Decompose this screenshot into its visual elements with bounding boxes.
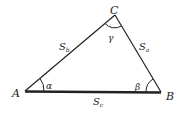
angle-beta-arc [146, 79, 153, 92]
angle-gamma-arc [105, 24, 122, 28]
side-label-b: Sb [59, 41, 70, 53]
angle-alpha-arc [40, 79, 44, 92]
angle-label-gamma: γ [108, 33, 114, 43]
angle-label-beta: β [134, 82, 140, 92]
vertex-label-b: B [165, 90, 174, 103]
side-label-c: Sc [93, 96, 104, 108]
side-label-a: Sa [139, 41, 150, 53]
angle-label-alpha: α [46, 81, 52, 91]
triangle-diagram: A B C Sb Sa Sc α β γ [0, 0, 186, 114]
side-c [25, 92, 161, 93]
vertex-label-c: C [110, 4, 119, 17]
side-b [25, 15, 115, 91]
vertex-label-a: A [11, 87, 20, 100]
side-a [115, 15, 161, 92]
